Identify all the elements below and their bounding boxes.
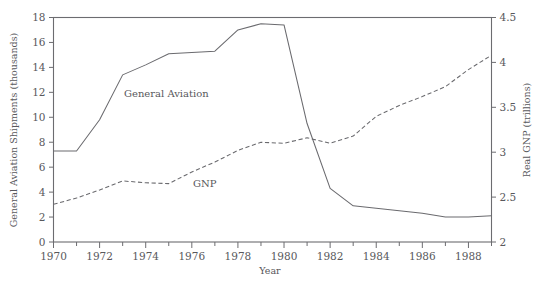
y-axis-left-tick-label: 12 (32, 86, 45, 98)
y-axis-left-title: General Aviation Shipments (thousands) (8, 33, 19, 227)
y-axis-right-title: Real GNP (trillions) (521, 83, 532, 177)
y-axis-right-ticks: 22.533.544.5 (492, 11, 517, 248)
y-axis-left-tick-label: 10 (32, 111, 45, 123)
x-axis-tick-label: 1982 (317, 250, 344, 262)
line-chart: 024681012141618 22.533.544.5 19701972197… (0, 0, 540, 281)
x-axis-ticks: 1970197219741976197819801982198419861988 (40, 242, 491, 262)
x-axis-tick-label: 1978 (225, 250, 252, 262)
x-axis-tick-label: 1988 (455, 250, 482, 262)
x-axis-title: Year (258, 265, 281, 276)
series-line-general-aviation (54, 24, 492, 217)
y-axis-left-tick-label: 16 (32, 36, 46, 48)
y-axis-left-tick-label: 2 (39, 211, 46, 223)
y-axis-right-tick-label: 3 (500, 146, 507, 158)
y-axis-right-tick-label: 2 (500, 236, 507, 248)
series-annotation-general-aviation: General Aviation (124, 88, 209, 99)
x-axis-tick-label: 1980 (271, 250, 298, 262)
y-axis-left-tick-label: 8 (39, 136, 46, 148)
x-axis-tick-label: 1972 (86, 250, 113, 262)
y-axis-left-tick-label: 6 (39, 161, 46, 173)
x-axis-tick-label: 1984 (363, 250, 390, 262)
y-axis-right-tick-label: 2.5 (500, 191, 517, 203)
data-series-group (54, 24, 492, 217)
series-annotation-gnp: GNP (193, 178, 217, 189)
chart-figure: 024681012141618 22.533.544.5 19701972197… (0, 0, 540, 281)
x-axis-tick-label: 1970 (40, 250, 67, 262)
y-axis-right-tick-label: 3.5 (500, 101, 517, 113)
y-axis-right-tick-label: 4.5 (500, 11, 517, 23)
plot-frame (54, 18, 492, 243)
y-axis-left-tick-label: 18 (32, 11, 45, 23)
y-axis-left-ticks: 024681012141618 (32, 11, 53, 248)
x-axis-tick-label: 1986 (409, 250, 436, 262)
x-axis-tick-label: 1974 (132, 250, 159, 262)
y-axis-right-tick-label: 4 (500, 56, 507, 68)
series-line-gnp (54, 55, 492, 204)
y-axis-left-tick-label: 0 (39, 236, 46, 248)
y-axis-left-tick-label: 4 (39, 186, 46, 198)
y-axis-left-tick-label: 14 (32, 61, 46, 73)
x-axis-tick-label: 1976 (178, 250, 205, 262)
